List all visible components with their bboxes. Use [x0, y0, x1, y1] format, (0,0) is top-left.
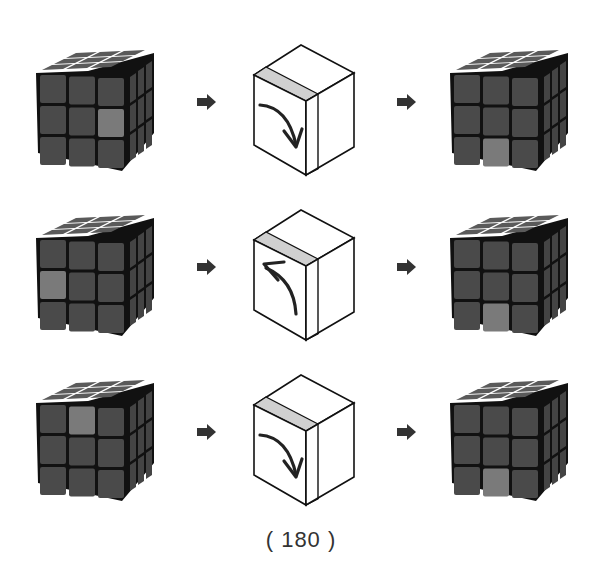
- front-sticker: [40, 271, 66, 299]
- right-arrow-icon: [396, 93, 418, 111]
- front-sticker: [454, 240, 480, 268]
- right-sticker: [560, 61, 566, 91]
- cube-before: [26, 198, 166, 348]
- right-sticker: [552, 125, 558, 155]
- front-sticker: [483, 407, 509, 435]
- front-sticker: [454, 405, 480, 433]
- figure-caption: ( 180 ): [0, 527, 602, 553]
- step-row: [0, 28, 602, 193]
- front-sticker: [483, 304, 509, 332]
- front-sticker: [512, 109, 538, 137]
- right-arrow-icon: [196, 423, 218, 441]
- front-sticker: [69, 139, 95, 167]
- front-sticker: [483, 242, 509, 270]
- move-diagram: [226, 363, 366, 513]
- front-sticker: [483, 108, 509, 136]
- right-sticker: [544, 102, 550, 132]
- right-sticker: [130, 267, 136, 297]
- top-sticker: [480, 63, 511, 69]
- right-sticker: [138, 426, 144, 456]
- cube-after: [440, 363, 580, 513]
- top-sticker: [504, 381, 535, 387]
- top-sticker: [480, 52, 511, 58]
- front-sticker: [40, 302, 66, 330]
- top-sticker: [480, 393, 511, 399]
- front-sticker: [69, 108, 95, 136]
- front-sticker: [454, 302, 480, 330]
- top-sticker: [492, 387, 523, 393]
- right-sticker: [130, 461, 136, 491]
- right-sticker: [146, 420, 152, 450]
- right-sticker: [130, 73, 136, 103]
- right-sticker: [130, 102, 136, 132]
- front-sticker: [454, 75, 480, 103]
- top-sticker: [114, 380, 145, 386]
- cube-before: [26, 33, 166, 183]
- top-sticker: [78, 57, 109, 63]
- top-sticker: [468, 223, 499, 229]
- front-sticker: [454, 106, 480, 134]
- right-arrow-icon: [196, 93, 218, 111]
- right-sticker: [560, 391, 566, 421]
- right-sticker: [560, 119, 566, 149]
- right-sticker: [544, 238, 550, 268]
- right-sticker: [146, 226, 152, 256]
- top-sticker: [90, 51, 121, 57]
- top-sticker: [528, 50, 559, 56]
- right-sticker: [130, 403, 136, 433]
- top-sticker: [114, 215, 145, 221]
- cube-after: [440, 33, 580, 183]
- top-sticker: [42, 64, 73, 70]
- front-sticker: [512, 140, 538, 168]
- front-sticker: [98, 109, 124, 137]
- right-sticker: [130, 131, 136, 161]
- right-sticker: [544, 73, 550, 103]
- right-sticker: [138, 125, 144, 155]
- cube-before: [26, 363, 166, 513]
- right-sticker: [560, 449, 566, 479]
- front-sticker: [512, 305, 538, 333]
- top-sticker: [480, 217, 511, 223]
- right-sticker: [138, 96, 144, 126]
- top-sticker: [66, 228, 97, 234]
- front-sticker: [40, 106, 66, 134]
- right-sticker: [544, 461, 550, 491]
- right-sticker: [544, 403, 550, 433]
- front-sticker: [69, 273, 95, 301]
- front-sticker: [512, 439, 538, 467]
- top-sticker: [114, 50, 145, 56]
- move-diagram: [226, 33, 366, 183]
- front-sticker: [98, 78, 124, 106]
- right-sticker: [560, 255, 566, 285]
- top-sticker: [66, 217, 97, 223]
- top-sticker: [78, 387, 109, 393]
- right-sticker: [552, 96, 558, 126]
- right-arrow-icon: [196, 258, 218, 276]
- right-sticker: [552, 261, 558, 291]
- right-sticker: [146, 119, 152, 149]
- top-sticker: [492, 222, 523, 228]
- front-sticker: [512, 243, 538, 271]
- front-sticker: [69, 77, 95, 105]
- top-sticker: [54, 223, 85, 229]
- top-sticker: [78, 222, 109, 228]
- top-sticker: [528, 215, 559, 221]
- right-sticker: [146, 391, 152, 421]
- top-sticker: [66, 63, 97, 69]
- top-sticker: [528, 380, 559, 386]
- step-row: [0, 193, 602, 358]
- front-sticker: [98, 274, 124, 302]
- front-sticker: [512, 78, 538, 106]
- right-sticker: [146, 255, 152, 285]
- right-sticker: [130, 432, 136, 462]
- front-sticker: [454, 467, 480, 495]
- right-sticker: [138, 261, 144, 291]
- top-sticker: [468, 388, 499, 394]
- top-sticker: [66, 52, 97, 58]
- front-sticker: [69, 304, 95, 332]
- top-sticker: [42, 229, 73, 235]
- step-row: [0, 358, 602, 523]
- front-sticker: [69, 407, 95, 435]
- top-sticker: [42, 394, 73, 400]
- front-sticker: [40, 137, 66, 165]
